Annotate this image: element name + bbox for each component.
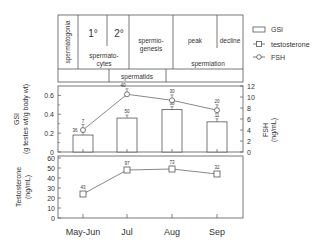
legend-gsi-label: GSI [271,26,283,33]
testosterone-ylabel-units: (ng/mL) [24,175,32,199]
gsi-y-axis: 00.20.40.6 [44,92,61,156]
legend-gsi-marker [253,27,265,32]
legend-testosterone-marker [257,42,262,47]
fsh-y-tick-label: 6 [247,116,251,123]
gsi-bar [117,118,137,152]
testosterone-y-tick-label: 10 [47,205,55,212]
testosterone-y-tick-label: 20 [47,195,55,202]
testosterone-y-tick-label: 60 [47,155,55,162]
fsh-y-tick-label: 4 [247,127,251,134]
stage-spermiation: spermiation [191,60,225,68]
testosterone-y-tick-label: 40 [47,175,55,182]
fsh-point [215,108,220,113]
testosterone-n-label: 97 [124,161,130,166]
gsi-n-label: 50 [124,109,130,114]
legend-testosterone-label: testosterone [271,41,310,48]
testosterone-y-tick-label: 50 [47,165,55,172]
fsh-line [83,94,217,130]
fsh-y-axis: 024681012 [240,83,255,156]
fsh-series: 7403020 [81,83,220,132]
stage-peak: peak [188,37,203,45]
fsh-y-tick-label: 8 [247,105,251,112]
x-axis: May-JunJulAugSep [66,149,225,237]
fsh-point [81,128,86,133]
stage-spermatogonia: spermatogonia [64,20,72,63]
gsi-y-tick-label: 0.4 [44,111,54,118]
x-tick-label: May-Jun [66,227,101,237]
stage-spermiogenesis: spermio-genesis [138,37,163,53]
testosterone-y-tick-label: 30 [47,185,55,192]
stage-spermatocytes: spermato-cytes [89,52,118,68]
fsh-point [125,92,130,97]
gsi-n-label: 36 [72,128,78,133]
fsh-n-label: 30 [169,89,175,94]
legend-fsh-marker [257,55,262,60]
x-tick-label: Sep [209,227,225,237]
fsh-n-label: 40 [120,83,126,88]
fsh-point [170,98,175,103]
fsh-y-tick-label: 12 [247,83,255,90]
gsi-bar [162,110,182,152]
testosterone-point [124,167,130,173]
gsi-y-tick-label: 0.2 [44,130,54,137]
testosterone-point [80,191,86,197]
gsi-ylabel-units: (g testes wt/g body wt) [22,84,30,154]
testosterone-point [169,166,175,172]
chart: spermatogonia 1° 2° spermato-cytes sperm… [0,0,335,250]
testosterone-point [214,171,220,177]
stage-spermatids: spermatids [121,73,154,81]
stage-secondary: 2° [114,28,124,39]
gsi-bar [207,122,227,152]
stage-primary: 1° [88,28,98,39]
gsi-n-label: 11 [215,113,220,118]
fsh-y-tick-label: 10 [247,94,255,101]
fsh-n-label: 20 [214,99,220,104]
testosterone-y-axis: 0102030405060 [47,155,61,222]
gsi-bars: 36503811 [72,101,227,152]
testosterone-n-label: 43 [80,185,86,190]
fsh-ylabel: FSH [262,123,269,137]
fsh-n-label: 7 [82,119,85,124]
legend-fsh-label: FSH [271,54,285,61]
testosterone-y-tick-label: 0 [51,215,55,222]
testosterone-line [83,169,217,194]
testosterone-series: 43977332 [80,160,220,197]
fsh-ylabel-units: (ng/mL) [270,118,278,142]
gsi-y-tick-label: 0.6 [44,92,54,99]
testosterone-n-label: 32 [214,165,220,170]
x-tick-label: Jul [121,227,133,237]
testosterone-ylabel: Testosterone [15,167,22,207]
fsh-y-tick-label: 0 [247,149,251,156]
stage-decline: decline [220,37,241,44]
legend: GSI testosterone FSH [253,26,310,61]
x-tick-label: Aug [164,227,180,237]
testosterone-n-label: 73 [169,160,175,165]
gsi-ylabel: GSI [13,113,20,125]
fsh-y-tick-label: 2 [247,138,251,145]
